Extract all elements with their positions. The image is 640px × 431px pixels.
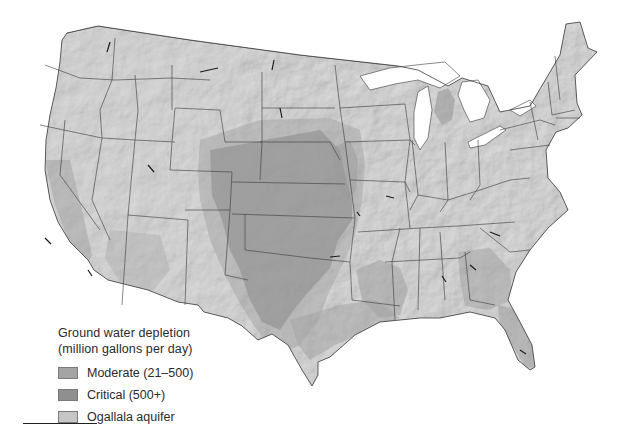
map-legend: Ground water depletion (million gallons … [58,325,258,427]
ogallala-swatch [58,411,78,423]
moderate-depletion-florida [498,305,535,368]
legend-title-line1: Ground water depletion [58,325,258,341]
legend-label-critical: Critical (500+) [87,388,165,402]
footnote-rule [23,423,97,424]
legend-title: Ground water depletion (million gallons … [58,325,258,357]
legend-label-ogallala: Ogallala aquifer [87,410,175,424]
moderate-swatch [58,367,78,379]
legend-label-moderate: Moderate (21–500) [87,366,193,380]
legend-item-moderate: Moderate (21–500) [58,362,258,383]
legend-title-line2: (million gallons per day) [58,341,258,357]
legend-item-critical: Critical (500+) [58,384,258,405]
critical-swatch [58,389,78,401]
